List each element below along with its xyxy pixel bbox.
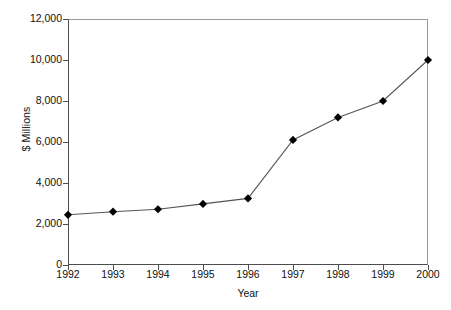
y-axis-tick-mark xyxy=(63,183,68,184)
y-axis-tick-label: 2,000 xyxy=(18,218,62,229)
x-axis-tick-label: 1992 xyxy=(45,268,91,280)
y-axis-tick-label: 10,000 xyxy=(18,54,62,65)
y-axis-tick-mark xyxy=(63,101,68,102)
data-point-marker xyxy=(199,200,207,208)
data-series-svg xyxy=(68,19,428,265)
x-axis-tick-label: 1997 xyxy=(270,268,316,280)
x-axis-tick-label: 1993 xyxy=(90,268,136,280)
y-axis-tick-label: 8,000 xyxy=(18,95,62,106)
y-axis-tick-mark xyxy=(63,60,68,61)
x-axis-tick-label: 1995 xyxy=(180,268,226,280)
x-axis-tick-label: 2000 xyxy=(405,268,451,280)
x-axis-tick-label: 1994 xyxy=(135,268,181,280)
y-axis-tick-label: 6,000 xyxy=(18,136,62,147)
x-axis-tick-labels: 199219931994199519961997199819992000 xyxy=(0,268,451,286)
y-axis-tick-label: 12,000 xyxy=(18,13,62,24)
data-point-marker xyxy=(154,205,162,213)
y-axis-tick-mark xyxy=(63,142,68,143)
data-point-marker xyxy=(109,208,117,216)
data-point-marker xyxy=(64,211,72,219)
y-axis-tick-label: 4,000 xyxy=(18,177,62,188)
series-line xyxy=(68,60,428,215)
x-axis-tick-label: 1998 xyxy=(315,268,361,280)
y-axis-tick-mark xyxy=(63,19,68,20)
plot-area xyxy=(68,19,428,265)
y-axis-tick-mark xyxy=(63,224,68,225)
x-axis-tick-label: 1999 xyxy=(360,268,406,280)
line-chart: $ Millions 12,00010,0008,0006,0004,0002,… xyxy=(0,0,451,310)
y-axis-tick-labels: 12,00010,0008,0006,0004,0002,0000 xyxy=(14,0,62,310)
data-point-marker xyxy=(334,113,342,121)
x-axis-tick-label: 1996 xyxy=(225,268,271,280)
x-axis-title: Year xyxy=(68,287,428,299)
